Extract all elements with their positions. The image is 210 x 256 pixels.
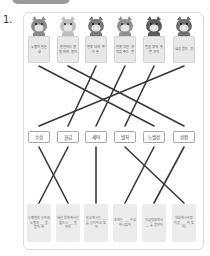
connection-line-top: [68, 66, 184, 126]
definition-card: 벌로 내게 주는 돈: [85, 36, 107, 63]
dog-icon: [55, 16, 81, 38]
sentence-card: 내년 방학에서는 월드시 ___ 할 자라: [56, 204, 80, 242]
raccoon-icon: [171, 16, 197, 38]
connection-line-top: [125, 66, 154, 126]
word-box[interactable]: 세탁: [85, 131, 107, 143]
connection-line-bottom: [125, 147, 184, 203]
definition-card: 노벨이 만든 상: [28, 36, 50, 63]
pig-icon: [112, 16, 138, 38]
definition-card: 잘못 착한 규칙을 주는 벌: [114, 36, 136, 63]
connection-line-bottom: [125, 147, 154, 203]
word-box[interactable]: 노벨상: [143, 131, 165, 143]
definition-card: 친절하는 행동 따위 용이: [57, 36, 79, 63]
sentence-card: 조에는 ___ 수성하시 있어: [113, 204, 137, 242]
sentence-card: 학교에서는 ___ 를 공지하고 있어: [84, 204, 108, 242]
word-box[interactable]: 벌칙: [114, 131, 136, 143]
word-box[interactable]: 월급: [57, 131, 79, 143]
cat-icon: [26, 16, 52, 38]
word-box[interactable]: 수상: [28, 131, 50, 143]
monkey-icon: [141, 16, 167, 38]
sentence-card: 지금 대회에서 ___ 를 받았어: [142, 204, 166, 242]
connection-line-top: [68, 66, 96, 126]
giraffe-icon: [83, 16, 109, 38]
connection-line-top: [39, 66, 154, 126]
sentence-card: 스웨덴의 알프레 노벨의 ___ 을 받아 해: [27, 204, 51, 242]
definition-card: 상을 받는 것: [173, 36, 195, 63]
sentence-card: 대회에서 사랑 어렵 ___ 하 있어?: [172, 204, 196, 242]
definition-card: 일을 정해 놓은 규칙: [143, 36, 165, 63]
connection-line-top: [39, 66, 184, 126]
connection-line-bottom: [154, 147, 184, 203]
word-box[interactable]: 상장: [173, 131, 195, 143]
